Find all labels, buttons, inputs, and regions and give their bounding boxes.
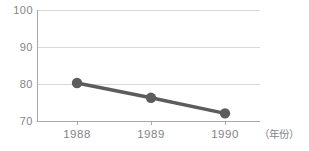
data-point-1990: [220, 108, 230, 118]
y-tick-label-80: 80: [0, 77, 33, 92]
y-tick-label-90: 90: [0, 40, 33, 55]
data-point-1988: [72, 78, 82, 88]
x-tick-label-1988: 1988: [47, 127, 107, 141]
x-tick-label-1990: 1990: [195, 127, 255, 141]
y-tick-label-100: 100: [0, 3, 33, 18]
data-point-1989: [146, 93, 156, 103]
x-tick-label-1989: 1989: [121, 127, 181, 141]
line-chart: 100908070198819891990 （年份）: [0, 0, 309, 151]
y-tick-label-70: 70: [0, 114, 33, 129]
x-axis-unit-label: （年份）: [259, 127, 309, 141]
